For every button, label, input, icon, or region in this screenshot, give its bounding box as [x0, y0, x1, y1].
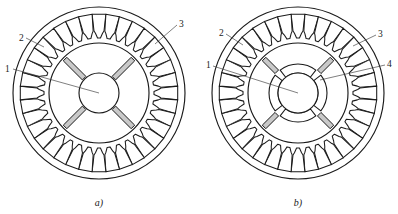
figure-drawing-layer — [13, 7, 384, 179]
callout-label-3: 3 — [378, 29, 383, 39]
callout-label-3: 3 — [179, 19, 184, 29]
callout-label-1: 1 — [206, 60, 211, 70]
panel-caption: a) — [95, 197, 104, 209]
callout-label-2: 2 — [219, 28, 224, 38]
callout-label-2: 2 — [19, 33, 24, 43]
callout-label-1: 1 — [5, 64, 10, 74]
figure-root: 123a)1234b) — [0, 0, 398, 214]
callout-label-4: 4 — [387, 59, 392, 69]
panel-caption: b) — [294, 197, 303, 209]
motor-cross-section-figure: 123a)1234b) — [0, 0, 398, 214]
